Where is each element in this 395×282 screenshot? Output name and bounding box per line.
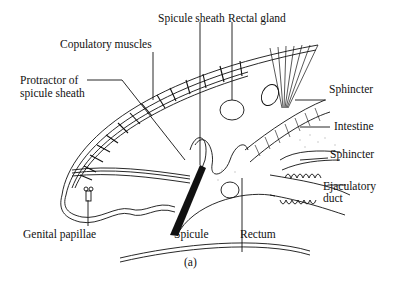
- label-intestine: Intestine: [334, 120, 374, 133]
- label-rectum: Rectum: [240, 228, 276, 241]
- label-spicule-sheath: Spicule sheath: [158, 12, 225, 25]
- figure-caption: (a): [184, 256, 197, 269]
- label-copulatory-muscles: Copulatory muscles: [60, 38, 152, 51]
- label-spicule: Spicule: [174, 228, 209, 241]
- label-sphincter-upper: Sphincter: [329, 83, 373, 96]
- label-sphincter-lower: Sphincter: [330, 148, 374, 161]
- label-ejaculatory-line2: duct: [323, 192, 343, 205]
- label-protractor-line1: Protractor of: [20, 74, 78, 87]
- label-rectal-gland: Rectal gland: [228, 12, 286, 25]
- label-genital-papillae: Genital papillae: [23, 228, 96, 241]
- label-protractor-line2: spicule sheath: [20, 87, 85, 100]
